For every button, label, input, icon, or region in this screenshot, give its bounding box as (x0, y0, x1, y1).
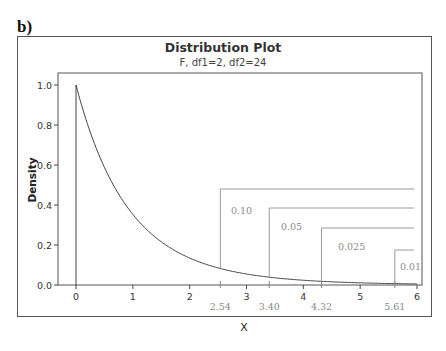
critical-value-label: 4.32 (311, 301, 332, 312)
y-axis: 0.00.20.40.60.81.0 (37, 80, 58, 291)
critical-value-label: 5.61 (384, 301, 405, 312)
x-tick-label: 5 (357, 291, 363, 302)
x-tick-label: 2 (187, 291, 193, 302)
y-tick-label: 0.8 (37, 120, 52, 131)
y-tick-label: 0.0 (37, 280, 52, 291)
x-axis-label: X (240, 321, 248, 334)
critical-bracket (322, 228, 414, 281)
y-tick-label: 1.0 (37, 80, 52, 91)
density-curve (76, 85, 417, 285)
plot-area (58, 73, 422, 285)
x-tick-label: 0 (73, 291, 79, 302)
distribution-plot: 0.00.20.40.60.81.0 0123456 0.102.540.053… (0, 0, 446, 351)
x-tick-label: 4 (300, 291, 306, 302)
alpha-label: 0.10 (231, 205, 252, 216)
critical-value-brackets: 0.102.540.053.400.0254.320.015.61 (210, 189, 421, 312)
alpha-label: 0.01 (400, 261, 421, 272)
y-tick-label: 0.6 (37, 160, 52, 171)
x-tick-label: 3 (243, 291, 249, 302)
critical-value-label: 2.54 (210, 301, 231, 312)
y-tick-label: 0.2 (37, 240, 52, 251)
critical-bracket (220, 189, 414, 269)
x-tick-label: 1 (130, 291, 136, 302)
plot-border (58, 73, 422, 285)
alpha-label: 0.025 (338, 241, 365, 252)
density-line (76, 85, 417, 285)
y-tick-label: 0.4 (37, 200, 52, 211)
y-axis-label: Density (26, 157, 38, 202)
critical-value-label: 3.40 (259, 301, 280, 312)
alpha-label: 0.05 (281, 221, 302, 232)
x-axis: 0123456 (73, 285, 420, 302)
x-tick-label: 6 (414, 291, 420, 302)
